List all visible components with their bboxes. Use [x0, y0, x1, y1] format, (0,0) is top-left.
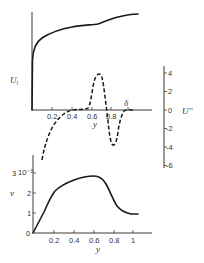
right-ytick-label: -2: [166, 124, 173, 133]
bottom-y-axis-title: ν: [10, 188, 14, 198]
top-xtick-label: 0.4: [67, 112, 77, 121]
top-x-axis-title: y: [92, 119, 97, 129]
figure: 0.2 0.4 0.6 0.8 δ y Ul 4 2 0 -2 -4 -6 U'…: [0, 0, 204, 263]
right-y-axis-title: U'': [182, 106, 193, 116]
right-ytick-label: -6: [166, 161, 173, 170]
nu-curve: [33, 176, 138, 233]
right-ytick-label: 0: [168, 106, 172, 115]
bottom-xtick-label: 1: [131, 236, 135, 245]
ul-curve: [32, 14, 138, 110]
right-ytick-label: -4: [166, 143, 173, 152]
right-ytick-label: 2: [168, 87, 172, 96]
bottom-ytick-label: 2: [27, 189, 31, 198]
bottom-xtick-label: 0.8: [109, 236, 119, 245]
bottom-scale-note: 10⁻³: [18, 168, 33, 177]
bottom-xtick-label: 0.4: [69, 236, 79, 245]
bottom-x-axis-title: y: [95, 244, 100, 254]
bottom-panel: 0 1 2 3 10⁻³ ν 0.2 0.4 0.6 0.8 1 y: [10, 155, 152, 254]
bottom-ytick-label: 0: [26, 229, 30, 238]
delta-label: δ: [124, 98, 129, 108]
top-y-axis-title: Ul: [10, 75, 19, 86]
right-ytick-label: 4: [168, 69, 172, 78]
bottom-ytick-label: 1: [27, 209, 31, 218]
bottom-xtick-label: 0.2: [49, 236, 59, 245]
top-panel: 0.2 0.4 0.6 0.8 δ y Ul 4 2 0 -2 -4 -6 U'…: [10, 12, 193, 170]
bottom-ytick-label: 3: [12, 169, 16, 178]
top-xtick-label: 0.2: [47, 112, 57, 121]
